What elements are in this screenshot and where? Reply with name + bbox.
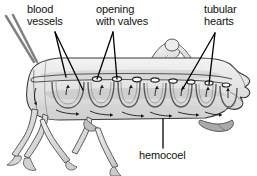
mid-leg-left-tarsus: [66, 161, 77, 170]
label-hemocoel-line1: hemocoel: [139, 150, 186, 162]
label-tubular-hearts-line2: hearts: [204, 16, 237, 28]
label-blood-vessels-line1: blood: [27, 4, 63, 16]
mid-leg-center-tarsus: [110, 167, 121, 176]
flow-arrowhead-body-7: [219, 113, 223, 117]
mid-leg-left-second: [40, 119, 70, 163]
label-hemocoel: hemocoel: [139, 150, 186, 162]
label-opening-with-valves: opening with valves: [96, 4, 148, 27]
label-blood-vessels: blood vessels: [27, 4, 63, 27]
label-tubular-hearts-line1: tubular: [204, 4, 237, 16]
ostium-4: [151, 78, 159, 82]
label-tubular-hearts: tubular hearts: [204, 4, 237, 27]
ostium-8: [222, 83, 230, 87]
diagram-figure: blood vessels opening with valves tubula…: [0, 0, 257, 176]
label-blood-vessels-line2: vessels: [27, 16, 63, 28]
mid-leg-left-lower: [24, 158, 37, 170]
hind-foot: [199, 120, 233, 131]
mid-leg-center-tibia: [95, 128, 118, 168]
front-tarsus: [7, 156, 21, 165]
label-opening-with-valves-line2: with valves: [96, 16, 148, 28]
label-opening-with-valves-line1: opening: [96, 4, 148, 16]
ostium-5: [169, 79, 177, 83]
hind-femur-knee: [165, 39, 179, 51]
ostium-3: [133, 77, 142, 82]
